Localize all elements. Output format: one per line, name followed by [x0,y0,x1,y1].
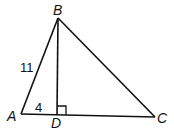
segment-bc [58,18,155,117]
vertex-label-b: B [53,2,62,18]
altitude-bd [57,18,58,115]
segment-label-ab: 11 [20,60,34,75]
vertex-label-c: C [157,110,168,126]
vertex-label-d: D [51,115,61,129]
triangle-diagram: B A D C 11 4 [0,0,174,129]
vertex-label-a: A [6,108,16,124]
segment-label-ad: 4 [35,100,42,115]
right-angle-marker [57,106,66,115]
